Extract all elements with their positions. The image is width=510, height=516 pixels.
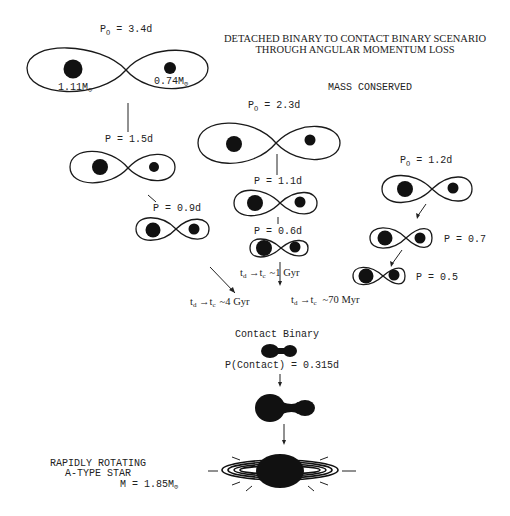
- track-b-step2-period: P = 0.6d: [254, 226, 302, 237]
- roche-lobe-a1: [70, 151, 175, 183]
- track-b-step1-period: P = 1.1d: [254, 176, 302, 187]
- contact-binary-heading: Contact Binary: [235, 329, 319, 340]
- secondary-star-c0: [448, 183, 459, 194]
- arrowhead-b: [278, 281, 282, 286]
- primary-star-c2: [359, 269, 374, 284]
- outflow-ul: [232, 457, 240, 460]
- secondary-star-a2: [189, 224, 200, 235]
- outflow-lr: [320, 482, 328, 485]
- track-a-timescale: td →tc~4 Gyr: [190, 296, 250, 309]
- primary-star-a1: [92, 159, 108, 175]
- outflow-ll: [232, 482, 240, 485]
- final-mass-label: M = 1.85M⊙: [120, 479, 178, 491]
- final-label-line2: A-TYPE STAR: [65, 468, 131, 479]
- title-line-2: THROUGH ANGULAR MOMENTUM LOSS: [255, 44, 454, 55]
- outflow-ur: [320, 457, 328, 460]
- primary-star-b1: [247, 195, 263, 211]
- secondary-star-b1: [295, 197, 306, 208]
- track-a-step2-period: P = 0.9d: [153, 203, 201, 214]
- contact-binary-section: Contact Binary P(Contact) = 0.315d: [225, 329, 339, 445]
- roche-lobe-c0: [382, 175, 472, 202]
- track-b: PO = 2.3d P = 1.1d P = 0.6d td →tc~1 Gyr: [198, 100, 340, 286]
- track-c-step2-period: P = 0.5: [416, 272, 458, 283]
- track-c-step1-period: P = 0.7: [444, 234, 486, 245]
- primary-star-c1: [378, 231, 393, 246]
- binary-evolution-diagram: DETACHED BINARY TO CONTACT BINARY SCENAR…: [0, 0, 510, 516]
- secondary-star-c2: [389, 270, 400, 281]
- contact-period: P(Contact) = 0.315d: [225, 360, 339, 371]
- secondary-star-a0: [164, 62, 176, 74]
- secondary-mass-label: 0.74M⊙: [154, 76, 188, 88]
- secondary-star-b2: [290, 242, 301, 253]
- primary-star-b0: [226, 136, 242, 152]
- secondary-star-a1: [149, 162, 159, 172]
- merging-neck: [282, 402, 298, 414]
- connector-a1-a2: [148, 195, 156, 202]
- primary-star-a2: [146, 223, 161, 238]
- primary-mass-label: 1.11M⊙: [58, 82, 92, 94]
- track-a: PO = 3.4d 1.11M⊙ 0.74M⊙ P = 1.5d P = 0.9…: [27, 24, 250, 309]
- roche-lobe-b0: [198, 123, 340, 163]
- track-a-step1-period: P = 1.5d: [105, 134, 153, 145]
- contact-neck: [272, 348, 288, 354]
- arrowhead-merge: [282, 440, 286, 445]
- connector-c1-c2: [392, 250, 402, 264]
- track-c-timescale: td →tc~70 Myr: [291, 294, 360, 307]
- secondary-star-b0: [305, 135, 316, 146]
- merging-primary: [255, 394, 285, 422]
- primary-star-b2: [256, 240, 272, 256]
- outflow-bl: [246, 486, 252, 491]
- secondary-star-c1: [415, 233, 426, 244]
- track-b-timescale: td →tc~1 Gyr: [240, 267, 300, 280]
- track-c-initial-period: PO = 1.2d: [400, 155, 452, 168]
- final-star-section: RAPIDLY ROTATING A-TYPE STAR M = 1.85M⊙: [50, 454, 356, 491]
- track-b-initial-period: PO = 2.3d: [248, 100, 300, 113]
- primary-star-a0: [64, 60, 83, 79]
- arrowhead-contact: [278, 382, 282, 387]
- track-c: PO = 1.2d P = 0.7 P = 0.5 td →tc~70 Myr: [291, 155, 486, 307]
- rapidly-rotating-star: [256, 454, 304, 488]
- outflow-br: [308, 486, 314, 491]
- track-a-initial-period: PO = 3.4d: [100, 24, 152, 37]
- title-line-1: DETACHED BINARY TO CONTACT BINARY SCENAR…: [224, 33, 487, 44]
- mass-conserved-label: MASS CONSERVED: [328, 82, 412, 93]
- primary-star-c0: [397, 181, 413, 197]
